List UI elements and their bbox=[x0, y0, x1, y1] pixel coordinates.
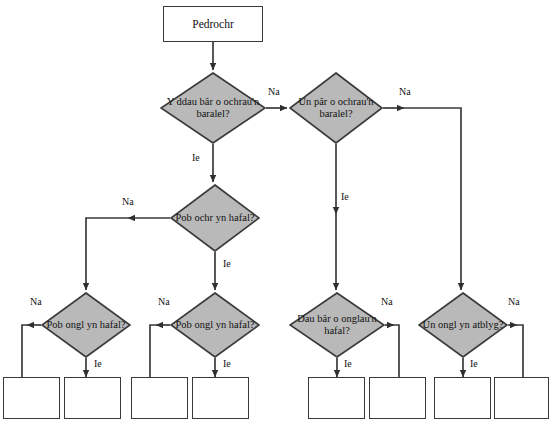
edge-d6-na-run bbox=[394, 325, 399, 377]
decision-node-d3: Pob ochr yn hafal? bbox=[170, 184, 260, 252]
decision-node-d2: Un pâr o ochrau'n baralel? bbox=[289, 72, 383, 144]
edge-label-e5: Na bbox=[122, 196, 134, 207]
edge-label-e10: Ie bbox=[223, 358, 231, 369]
result-box-r2[interactable] bbox=[64, 377, 121, 419]
edge-label-e6: Ie bbox=[223, 258, 231, 269]
flowchart-canvas: Pedrochr Y ddau bâr o ochrau'n baralel?U… bbox=[0, 0, 551, 425]
result-box-r8[interactable] bbox=[494, 377, 549, 419]
decision-node-d6: Dau bâr o onglau'n hafal? bbox=[289, 292, 385, 358]
result-box-r4[interactable] bbox=[192, 377, 249, 419]
edge-label-e12: Ie bbox=[344, 358, 352, 369]
decision-shape bbox=[41, 292, 131, 358]
decision-shape bbox=[170, 184, 260, 252]
decision-node-d1: Y ddau bâr o ochrau'n baralel? bbox=[160, 72, 266, 144]
decision-shape bbox=[289, 72, 383, 144]
result-box-r1[interactable] bbox=[3, 377, 60, 419]
edge-label-e2: Ie bbox=[192, 152, 200, 163]
decision-node-d5: Pob ongl yn hafal? bbox=[170, 292, 260, 358]
start-node: Pedrochr bbox=[163, 6, 263, 42]
edge-d2-na-run bbox=[404, 108, 461, 290]
result-box-r7[interactable] bbox=[434, 377, 491, 419]
edge-d3-na-run bbox=[86, 218, 128, 290]
result-box-r3[interactable] bbox=[131, 377, 188, 419]
decision-shape bbox=[418, 292, 508, 358]
start-node-label: Pedrochr bbox=[192, 18, 234, 30]
connector-layer bbox=[0, 0, 551, 425]
edge-label-e4: Ie bbox=[341, 191, 349, 202]
edge-label-e3: Na bbox=[399, 86, 411, 97]
edge-label-e14: Ie bbox=[470, 358, 478, 369]
decision-node-d4: Pob ongl yn hafal? bbox=[41, 292, 131, 358]
edge-label-e9: Na bbox=[158, 296, 170, 307]
edge-label-e1: Na bbox=[268, 86, 280, 97]
edge-d5-na-run bbox=[150, 325, 156, 377]
edge-label-e7: Na bbox=[30, 296, 42, 307]
edge-label-e13: Na bbox=[508, 296, 520, 307]
decision-shape bbox=[160, 72, 266, 144]
edge-d7-na-run bbox=[517, 325, 523, 377]
result-box-r6[interactable] bbox=[369, 377, 426, 419]
result-box-r5[interactable] bbox=[308, 377, 365, 419]
edge-label-e8: Ie bbox=[94, 358, 102, 369]
edge-d4-na-run bbox=[22, 325, 27, 377]
decision-shape bbox=[289, 292, 385, 358]
decision-node-d7: Un ongl yn atblyg? bbox=[418, 292, 508, 358]
decision-shape bbox=[170, 292, 260, 358]
edge-label-e11: Na bbox=[381, 296, 393, 307]
